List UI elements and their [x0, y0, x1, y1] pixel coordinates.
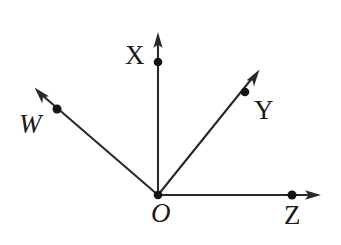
axis-points [53, 58, 297, 200]
z-axis-label: Z [284, 202, 301, 229]
w-axis-label: W [19, 111, 42, 138]
x-axis-point [154, 58, 163, 67]
z-axis-point [288, 191, 297, 200]
y-axis-label: Y [254, 97, 274, 124]
x-axis-label: X [125, 42, 145, 69]
y-axis-line [158, 77, 253, 195]
origin-label: O [151, 200, 171, 227]
y-axis-point [241, 88, 250, 97]
w-axis-arrowhead [35, 88, 49, 104]
axis-arrowheads [35, 32, 322, 200]
w-axis-point [53, 105, 62, 114]
axes-diagram-figure: X Y W Z O [0, 0, 341, 245]
